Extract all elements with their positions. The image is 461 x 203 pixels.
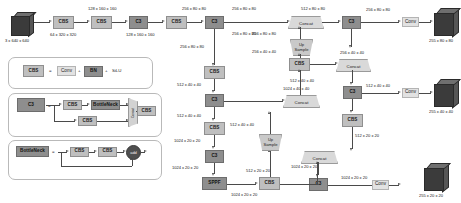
- block-concat-p5-down[interactable]: Concat: [301, 151, 338, 164]
- arrow-head: [212, 146, 214, 149]
- label-cbs4-out: 512 x 40 x 40: [177, 82, 201, 87]
- label-concat3-out: 512 x 40 x 40: [290, 78, 314, 83]
- block-c3-1[interactable]: C3: [129, 16, 148, 29]
- arrow-line: [361, 22, 399, 23]
- upsample-line2: Sample: [295, 48, 309, 52]
- arrow-head: [201, 20, 204, 22]
- arrow-line: [352, 127, 353, 149]
- block-upsample-1[interactable]: Up Sample: [259, 134, 282, 151]
- arrow-head: [350, 82, 352, 85]
- arrow-head: [282, 99, 285, 101]
- arrow-head: [49, 20, 52, 22]
- arrow-head: [316, 161, 318, 164]
- arrow-line: [270, 112, 271, 134]
- legend-c3-branch-cbs-bottom: CBS: [78, 116, 97, 126]
- label-c3-3-skip: 512 x 40 x 40: [177, 113, 201, 118]
- arrow-line: [54, 121, 75, 122]
- label-cbs3-out: 256 x 80 x 80: [182, 6, 206, 11]
- block-cbs-1[interactable]: CBS: [53, 16, 74, 29]
- label-cbs-p5-out: 512 x 20 x 20: [246, 168, 270, 173]
- label-sppf-out: 1024 x 20 x 20: [231, 192, 257, 197]
- arrow-line: [187, 22, 202, 23]
- block-c3-2[interactable]: C3: [205, 16, 224, 29]
- arrow-line: [300, 70, 301, 95]
- arrow-line: [54, 105, 55, 121]
- block-c3-neck-p4[interactable]: C3: [343, 86, 362, 99]
- block-concat-p4-up[interactable]: Concat: [283, 95, 320, 108]
- arrow-head: [398, 183, 401, 185]
- block-conv-head-mid[interactable]: Conv: [402, 88, 419, 98]
- legend-equals-bn: =: [52, 149, 55, 154]
- output-tensor-cube-large: [434, 8, 458, 34]
- block-cbs-2[interactable]: CBS: [91, 16, 112, 29]
- legend-c3-out-cbs: CBS: [137, 106, 156, 116]
- arrow-head: [59, 103, 62, 105]
- block-c3-4[interactable]: C3: [205, 150, 224, 163]
- legend-c3-branch-cbs-top: CBS: [63, 100, 82, 110]
- label-cbs2-out: 128 x 160 x 160: [88, 6, 116, 11]
- label-head-mid-out: 255 x 40 x 40: [429, 109, 453, 114]
- concat-label: Concat: [299, 21, 313, 26]
- concat-label: Concat: [347, 64, 361, 69]
- block-concat-p3[interactable]: Concat: [288, 16, 324, 29]
- output-tensor-cube-small: [424, 163, 448, 189]
- arrow-line: [112, 22, 126, 23]
- arrow-head: [298, 53, 300, 56]
- block-c3-neck-p3[interactable]: C3: [342, 16, 361, 29]
- label-head-large-out: 255 x 80 x 80: [429, 38, 453, 43]
- legend-block-bottleneck: BottleNeck: [16, 146, 49, 157]
- arrow-line: [148, 22, 163, 23]
- block-concat-p4-down[interactable]: Concat: [336, 59, 371, 72]
- arrow-head: [87, 20, 90, 22]
- label-c3-2-out: 256 x 80 x 80: [232, 6, 256, 11]
- arrow-line: [310, 64, 336, 65]
- arrow-head: [125, 20, 128, 22]
- arrow-head: [398, 91, 401, 93]
- legend-c3-bottleneck: BottleNeck: [91, 100, 120, 110]
- block-c3-3[interactable]: C3: [205, 94, 224, 107]
- input-tensor-cube: [11, 12, 33, 34]
- block-cbs-lateral-p5[interactable]: CBS: [259, 177, 280, 190]
- label-c3-4-out: 1024 x 20 x 20: [172, 165, 198, 170]
- output-tensor-cube-mid: [434, 79, 458, 105]
- arrow-line: [61, 152, 62, 167]
- label-head-small-in: 1024 x 20 x 20: [341, 175, 367, 180]
- label-cbs-p4-out: 256 x 40 x 40: [252, 49, 276, 54]
- block-conv-head-large[interactable]: Conv: [402, 17, 419, 27]
- arrow-head: [268, 111, 270, 114]
- block-cbs-3[interactable]: CBS: [166, 16, 187, 29]
- arrow-head: [287, 20, 290, 22]
- legend-bn-cbs-1: CBS: [70, 147, 89, 157]
- arrow-head: [212, 173, 214, 176]
- arrow-line: [46, 105, 54, 106]
- legend-block-bn: BN: [84, 66, 103, 77]
- label-concat1-out: 1024 x 40 x 40: [283, 86, 309, 91]
- block-cbs-5[interactable]: CBS: [204, 122, 225, 135]
- concat-label: Concat: [295, 100, 309, 105]
- block-sppf[interactable]: SPPF: [202, 177, 227, 190]
- arrow-head: [298, 69, 300, 72]
- arrow-head: [94, 150, 97, 152]
- legend-equals: =: [49, 68, 52, 73]
- arrow-line: [74, 22, 88, 23]
- block-cbs-4[interactable]: CBS: [204, 66, 225, 79]
- arrow-line: [97, 121, 128, 122]
- label-cbs1-out: 64 x 320 x 320: [50, 32, 76, 37]
- block-c3-neck-p5[interactable]: C3: [309, 178, 328, 191]
- label-head-mid-in: 512 x 40 x 40: [366, 83, 390, 88]
- label-c3-1-out: 128 x 160 x 160: [126, 32, 154, 37]
- legend-plus-2: +: [105, 68, 108, 73]
- block-upsample-2[interactable]: Up Sample: [290, 39, 313, 56]
- arrow-head: [430, 91, 433, 93]
- block-cbs-downsample-2[interactable]: CBS: [342, 114, 363, 127]
- block-conv-head-small[interactable]: Conv: [372, 180, 389, 190]
- arrow-head: [350, 110, 352, 113]
- architecture-diagram: 3 x 640 x 640 CBS 64 x 320 x 320 CBS 128…: [0, 0, 461, 203]
- arrow-line: [270, 150, 271, 177]
- legend-bn-add-node: add: [126, 145, 141, 160]
- arrow-head: [338, 20, 341, 22]
- arrow-head: [255, 182, 258, 184]
- arrow-head: [335, 62, 338, 64]
- arrow-line: [227, 184, 256, 185]
- legend-plus-1: +: [78, 68, 81, 73]
